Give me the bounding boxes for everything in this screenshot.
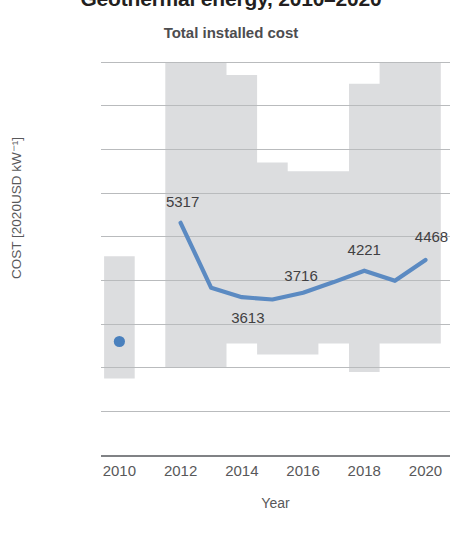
chart-figure: Geothermal energy, 2010–2020 Total insta… bbox=[0, 0, 462, 537]
series-line bbox=[101, 62, 450, 455]
data-value-label: 3613 bbox=[231, 309, 264, 326]
data-value-label: 4468 bbox=[415, 228, 448, 245]
chart-title: Geothermal energy, 2010–2020 bbox=[0, 0, 462, 11]
x-tick-label: 2020 bbox=[396, 462, 456, 479]
x-tick-label: 2016 bbox=[273, 462, 333, 479]
data-value-label: 3716 bbox=[284, 267, 317, 284]
series-line-layer bbox=[101, 62, 450, 455]
data-value-label: 4221 bbox=[348, 241, 381, 258]
x-axis-title: Year bbox=[101, 495, 450, 511]
data-point-marker bbox=[114, 336, 125, 347]
x-tick-label: 2018 bbox=[334, 462, 394, 479]
x-tick-label: 2010 bbox=[89, 462, 149, 479]
data-value-label: 5317 bbox=[166, 193, 199, 210]
x-tick-label: 2014 bbox=[212, 462, 272, 479]
x-tick-label: 2012 bbox=[151, 462, 211, 479]
trend-line bbox=[181, 223, 426, 300]
chart-subtitle: Total installed cost bbox=[0, 24, 462, 41]
y-axis-title: COST [2020USD kW⁻¹] bbox=[8, 108, 24, 308]
x-axis-line bbox=[101, 455, 450, 457]
plot-area: 53173613371642214468 0100020003000400050… bbox=[101, 62, 450, 455]
